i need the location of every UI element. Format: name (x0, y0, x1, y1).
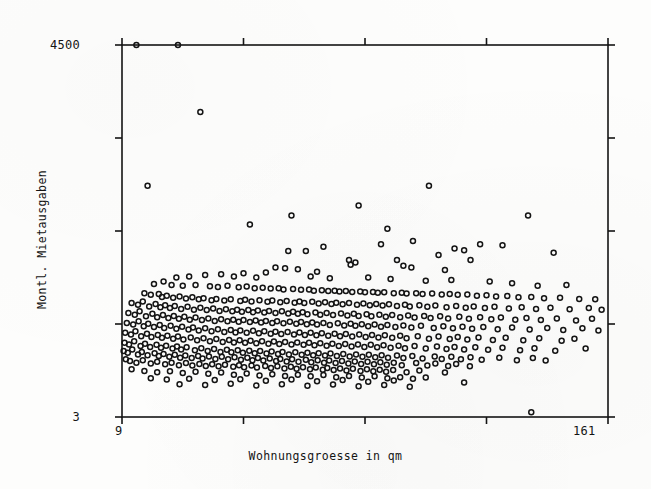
x-axis-max-tick-label: 161 (573, 424, 596, 438)
y-axis-max-tick-label: 4500 (50, 38, 80, 52)
data-point-layer (121, 43, 604, 415)
x-axis-min-tick-label: 9 (115, 424, 123, 438)
plot-canvas (0, 0, 651, 489)
scatter-plot-figure: 4500 3 9 161 Wohnungsgroesse in qm Montl… (0, 0, 651, 489)
y-axis-title-wrapper: Montl. Mietausgaben (31, 130, 50, 350)
y-axis-min-tick-label: 3 (72, 410, 80, 424)
y-axis-title: Montl. Mietausgaben (35, 170, 49, 309)
x-axis-title: Wohnungsgroesse in qm (0, 449, 651, 463)
